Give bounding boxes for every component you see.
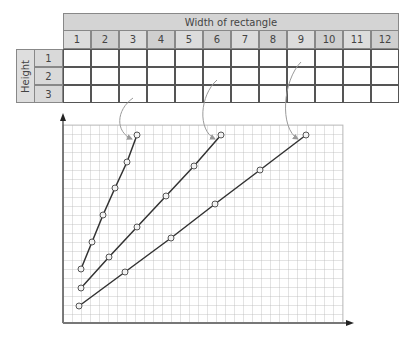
data-point-circle-icon <box>124 159 130 165</box>
data-point-circle-icon <box>303 132 309 138</box>
data-point-circle-icon <box>163 193 169 199</box>
data-point-circle-icon <box>76 303 82 309</box>
data-point-circle-icon <box>212 201 218 207</box>
data-point-circle-icon <box>257 167 263 173</box>
data-point-circle-icon <box>89 239 95 245</box>
data-point-circle-icon <box>100 212 106 218</box>
data-point-circle-icon <box>106 254 112 260</box>
line-graph <box>0 0 416 339</box>
x-axis-arrow-icon <box>346 320 354 326</box>
y-axis-arrow-icon <box>60 113 66 121</box>
data-point-circle-icon <box>134 132 140 138</box>
data-point-circle-icon <box>78 266 84 272</box>
data-point-circle-icon <box>191 163 197 169</box>
data-point-circle-icon <box>112 185 118 191</box>
data-point-circle-icon <box>218 132 224 138</box>
data-point-circle-icon <box>168 235 174 241</box>
data-point-circle-icon <box>122 269 128 275</box>
data-point-circle-icon <box>78 285 84 291</box>
data-point-circle-icon <box>134 224 140 230</box>
